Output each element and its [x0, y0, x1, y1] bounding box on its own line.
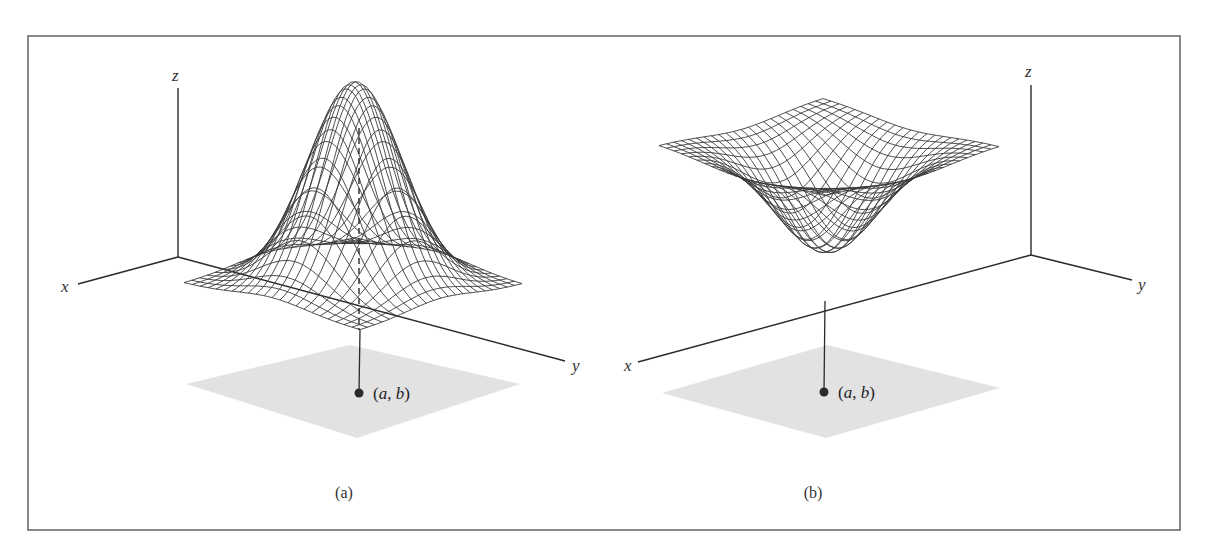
mesh-line	[336, 261, 499, 322]
domain-shadow-a	[186, 345, 520, 438]
figure-frame	[28, 36, 1180, 530]
x-axis-label-b: x	[623, 356, 632, 375]
domain-shadow-b	[662, 345, 1000, 438]
point-label-b: (a, b)	[838, 383, 875, 402]
mesh-line	[344, 276, 507, 325]
point-label-a: (a, b)	[373, 384, 410, 403]
y-axis-b	[1031, 255, 1132, 280]
mesh-line	[192, 280, 368, 327]
x-axis-a	[78, 257, 178, 284]
mesh-line	[256, 97, 423, 294]
x-axis-label-a: x	[60, 277, 69, 296]
mesh-line	[757, 134, 927, 249]
point-ab-a	[355, 389, 364, 398]
panel-b-local-minimum: z x y (a, b) (b)	[623, 62, 1146, 502]
mesh-line	[352, 281, 514, 327]
mesh-line	[285, 97, 456, 294]
panel-a-local-maximum: z x y (a, b) (a)	[60, 66, 580, 502]
figure-canvas: z x y (a, b) (a) z x y (a, b) (b)	[0, 0, 1211, 558]
caption-a: (a)	[335, 484, 353, 502]
mesh-line	[667, 101, 832, 148]
surface-mesh-well	[659, 99, 999, 253]
y-axis-label-b: y	[1136, 275, 1146, 294]
point-ab-b	[820, 388, 829, 397]
z-axis-label-a: z	[171, 66, 179, 85]
mesh-line	[296, 130, 461, 306]
mesh-line	[200, 276, 375, 325]
mesh-line	[360, 284, 522, 330]
y-axis-label-a: y	[570, 356, 580, 375]
surface-mesh-peak	[184, 82, 522, 330]
caption-b: (b)	[804, 484, 823, 502]
x-axis-b	[638, 255, 1031, 362]
z-axis-label-b: z	[1024, 62, 1032, 81]
